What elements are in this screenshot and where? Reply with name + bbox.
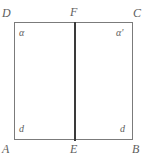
vertex-label-d-top-left: D <box>2 7 11 19</box>
angle-label-d-right: d <box>120 124 125 134</box>
median-segment-ef <box>74 22 76 141</box>
vertex-label-b: B <box>132 143 139 155</box>
geometry-figure: D F C A E B α α' d d <box>0 0 149 161</box>
vertex-label-a: A <box>2 143 9 155</box>
angle-label-alpha-prime: α' <box>116 28 123 38</box>
angle-label-d-left: d <box>19 124 24 134</box>
vertex-label-f: F <box>70 6 77 18</box>
angle-label-alpha: α <box>19 28 24 38</box>
vertex-label-c: C <box>133 7 141 19</box>
vertex-label-e: E <box>70 143 77 155</box>
